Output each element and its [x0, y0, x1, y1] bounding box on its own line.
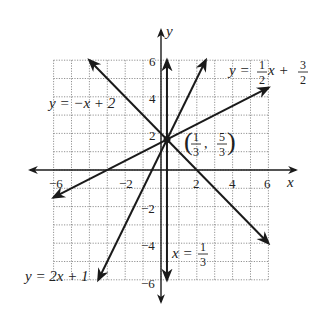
svg-text:x +: x + [267, 62, 289, 78]
label-eq-2x-plus-1: y = 2x + 1 [23, 268, 89, 284]
y-axis-label: y [164, 23, 173, 39]
svg-text:3: 3 [193, 145, 199, 159]
tick-x-2: 2 [193, 176, 200, 191]
svg-text:1: 1 [200, 240, 206, 254]
intersection-point [164, 136, 171, 143]
svg-text:1: 1 [193, 130, 199, 144]
svg-text:3: 3 [200, 255, 206, 269]
label-eq-half-x-plus-three-halves: y = 1 2 x + 3 2 [227, 58, 308, 87]
label-intersection-point: ( 1 3 , 5 3 ) [184, 127, 236, 159]
svg-text:1: 1 [259, 58, 265, 72]
svg-text:2: 2 [300, 73, 306, 87]
label-eq-x-eq-one-third: x = 1 3 [171, 240, 208, 269]
coordinate-plane: y x −6 −2 2 4 6 6 4 2 −2 −4 −6 y = −x + … [0, 0, 329, 325]
tick-x-neg2: −2 [119, 176, 133, 191]
tick-y-4: 4 [149, 91, 156, 106]
tick-x-6: 6 [264, 176, 271, 191]
x-axis-label: x [286, 174, 294, 190]
svg-text:y =: y = [227, 62, 250, 78]
svg-text:3: 3 [219, 145, 225, 159]
tick-y-neg4: −4 [141, 238, 155, 253]
tick-y-neg2: −2 [141, 201, 155, 216]
svg-text:,: , [204, 136, 208, 151]
svg-text:2: 2 [259, 73, 265, 87]
tick-x-4: 4 [229, 176, 236, 191]
tick-x-neg6: −6 [49, 176, 63, 191]
tick-y-6: 6 [149, 54, 156, 69]
svg-text:5: 5 [219, 130, 225, 144]
label-eq-neg-x-plus-2: y = −x + 2 [47, 95, 116, 111]
svg-text:x =: x = [171, 245, 193, 261]
svg-text:(: ( [184, 127, 193, 156]
svg-text:): ) [227, 127, 236, 156]
tick-y-neg6: −6 [141, 276, 155, 291]
tick-y-2: 2 [149, 128, 156, 143]
svg-text:3: 3 [300, 58, 306, 72]
